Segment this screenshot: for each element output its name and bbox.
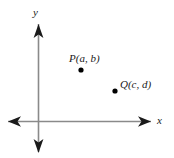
- point-dot-q: [112, 88, 117, 93]
- point-label-p: P(a, b): [69, 53, 100, 64]
- point-label-q: Q(c, d): [120, 79, 151, 90]
- coordinate-plane-figure: y x P(a, b) Q(c, d): [0, 0, 174, 158]
- point-dot-p: [78, 67, 83, 72]
- y-axis-label: y: [33, 7, 38, 18]
- x-axis-label: x: [157, 115, 162, 126]
